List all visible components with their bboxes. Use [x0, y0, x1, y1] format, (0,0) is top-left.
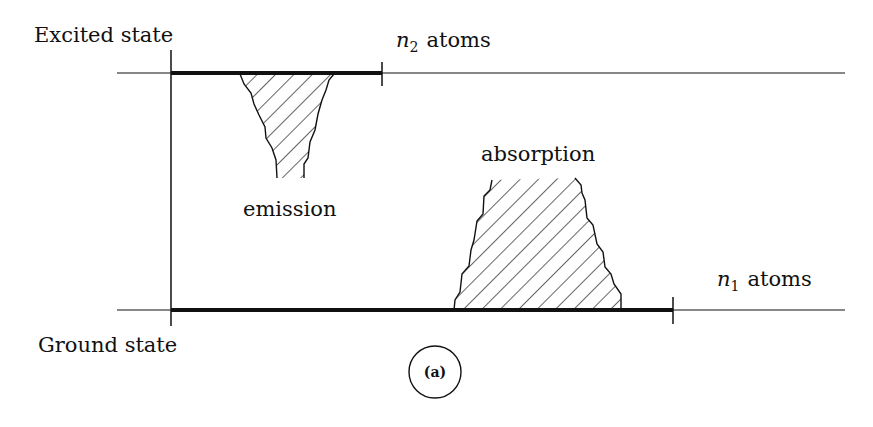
emission-label: emission	[243, 197, 337, 221]
absorption-hatch-fill	[454, 178, 621, 310]
excited-population-label: n2atoms	[396, 28, 491, 55]
emission-hatch-fill	[240, 74, 334, 178]
absorption-label: absorption	[481, 142, 595, 166]
excited-state-label: Excited state	[34, 23, 173, 47]
panel-label: (a)	[424, 364, 446, 380]
ground-population-label: n1atoms	[717, 267, 812, 294]
ground-state-label: Ground state	[38, 333, 177, 357]
energy-level-diagram: Excited state n2atoms emission absorptio…	[0, 0, 873, 427]
